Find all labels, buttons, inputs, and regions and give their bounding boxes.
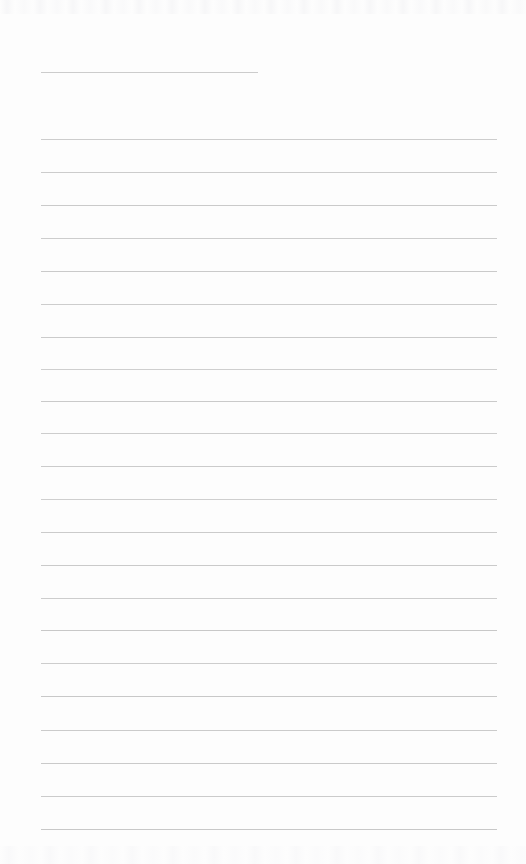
scan-noise-top-edge [0, 0, 526, 14]
body-rule-19 [41, 730, 497, 731]
body-rule-6 [41, 304, 497, 305]
notepad-page [0, 0, 526, 864]
body-rule-10 [41, 433, 497, 434]
body-rule-18 [41, 696, 497, 697]
body-rule-16 [41, 630, 497, 631]
body-rule-22 [41, 829, 497, 830]
body-rule-11 [41, 466, 497, 467]
body-rule-20 [41, 763, 497, 764]
body-rule-4 [41, 238, 497, 239]
body-rule-14 [41, 565, 497, 566]
body-rule-12 [41, 499, 497, 500]
body-rule-2 [41, 172, 497, 173]
body-rule-21 [41, 796, 497, 797]
body-rule-8 [41, 369, 497, 370]
scan-noise-bottom-edge [0, 846, 526, 864]
title-rule [41, 72, 258, 73]
body-rule-7 [41, 337, 497, 338]
body-rule-1 [41, 139, 497, 140]
body-rule-15 [41, 598, 497, 599]
body-rule-17 [41, 663, 497, 664]
body-rule-13 [41, 532, 497, 533]
body-rule-9 [41, 401, 497, 402]
body-rule-5 [41, 271, 497, 272]
body-rule-3 [41, 205, 497, 206]
